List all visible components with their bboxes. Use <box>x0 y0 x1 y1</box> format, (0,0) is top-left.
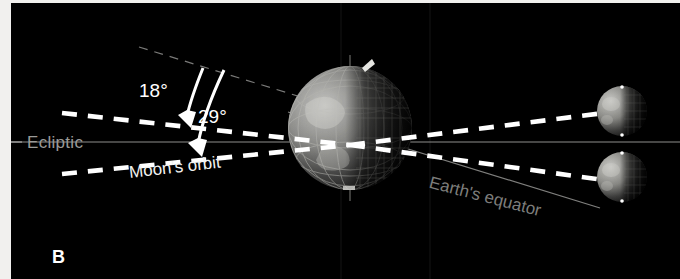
figure-panel-b: Ecliptic Moon's orbit Earth's equator 18… <box>0 0 680 279</box>
moon-lower <box>597 151 648 203</box>
moon-upper <box>597 85 648 137</box>
earth-globe <box>288 55 414 201</box>
diagram-svg <box>0 0 680 279</box>
angle-arc-18 <box>178 68 203 128</box>
